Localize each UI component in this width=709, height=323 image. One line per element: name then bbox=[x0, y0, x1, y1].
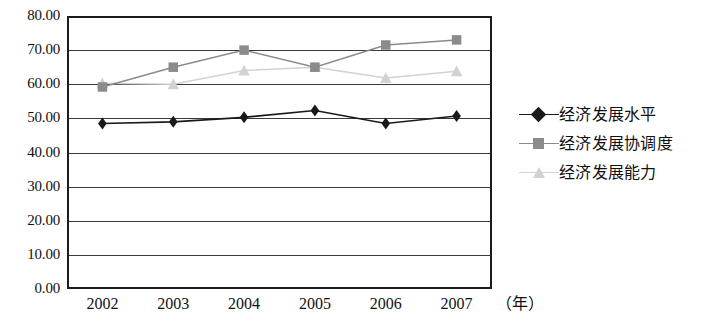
x-axis-tick-label: 2004 bbox=[209, 293, 279, 315]
data-point-marker bbox=[381, 40, 391, 50]
legend-key-marker bbox=[531, 106, 547, 122]
x-axis-tick-labels: 200220032004200520062007 bbox=[67, 293, 492, 319]
data-point-marker bbox=[169, 62, 179, 72]
data-point-marker bbox=[310, 62, 320, 72]
legend-item[interactable]: 经济发展能力 bbox=[519, 158, 709, 187]
data-point-marker bbox=[451, 65, 463, 76]
data-point-marker bbox=[98, 117, 107, 129]
y-axis-tick-label: 20.00 bbox=[0, 213, 60, 228]
series-3 bbox=[97, 61, 463, 89]
data-point-marker bbox=[239, 45, 249, 55]
series-1 bbox=[98, 105, 461, 130]
x-axis-tick-label: 2005 bbox=[280, 293, 350, 315]
diamond-icon bbox=[519, 105, 559, 125]
data-point-marker bbox=[381, 117, 390, 129]
legend-key-marker bbox=[533, 167, 545, 178]
series-line bbox=[102, 111, 456, 124]
legend-item-label: 经济发展协调度 bbox=[559, 134, 673, 154]
x-axis-tick-label: 2006 bbox=[351, 293, 421, 315]
legend-key-marker bbox=[533, 138, 544, 149]
y-axis-tick-labels: 80.0070.0060.0050.0040.0030.0020.0010.00… bbox=[0, 0, 64, 323]
square-icon bbox=[519, 134, 559, 154]
y-axis-tick-label: 40.00 bbox=[0, 145, 60, 160]
data-point-marker bbox=[311, 105, 320, 117]
legend-item-label: 经济发展能力 bbox=[559, 163, 657, 183]
data-point-marker bbox=[169, 116, 178, 128]
y-axis-tick-label: 50.00 bbox=[0, 110, 60, 125]
legend-item[interactable]: 经济发展协调度 bbox=[519, 129, 709, 158]
legend-item[interactable]: 经济发展水平 bbox=[519, 100, 709, 129]
line-chart-figure: 80.0070.0060.0050.0040.0030.0020.0010.00… bbox=[0, 0, 709, 323]
x-axis-tick-label: 2003 bbox=[138, 293, 208, 315]
y-axis-tick-label: 30.00 bbox=[0, 179, 60, 194]
data-series-layer bbox=[67, 16, 492, 289]
x-axis-tick-label: 2007 bbox=[422, 293, 492, 315]
y-axis-tick-label: 70.00 bbox=[0, 42, 60, 57]
data-point-marker bbox=[98, 82, 108, 92]
triangle-icon bbox=[519, 163, 559, 183]
x-axis-unit-label: （年） bbox=[496, 293, 544, 315]
chart-legend: 经济发展水平经济发展协调度经济发展能力 bbox=[519, 100, 709, 187]
legend-item-label: 经济发展水平 bbox=[559, 105, 657, 125]
y-axis-tick-label: 60.00 bbox=[0, 76, 60, 91]
data-point-marker bbox=[452, 35, 462, 45]
y-axis-tick-label: 10.00 bbox=[0, 247, 60, 262]
x-axis-tick-label: 2002 bbox=[67, 293, 137, 315]
y-axis-tick-label: 0.00 bbox=[0, 281, 60, 296]
y-axis-tick-label: 80.00 bbox=[0, 8, 60, 23]
series-line bbox=[102, 67, 456, 84]
series-line bbox=[102, 40, 456, 87]
data-point-marker bbox=[452, 110, 461, 122]
data-point-marker bbox=[240, 111, 249, 123]
